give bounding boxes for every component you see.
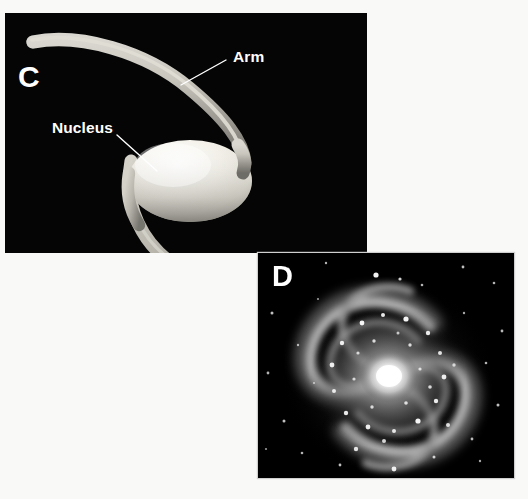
figure-root: C Arm Nucleus Arm	[0, 0, 528, 499]
label-nucleus: Nucleus	[52, 120, 113, 136]
galaxy-nucleus	[128, 140, 252, 222]
panel-c: C Arm Nucleus Arm	[5, 13, 367, 253]
galaxy-core-bright	[376, 365, 402, 387]
panel-letter-c: C	[18, 62, 39, 92]
panel-d-graphic	[258, 253, 514, 478]
panel-d: D	[258, 253, 514, 478]
label-arm-top: Arm	[233, 49, 264, 65]
panel-letter-d: D	[272, 262, 292, 291]
